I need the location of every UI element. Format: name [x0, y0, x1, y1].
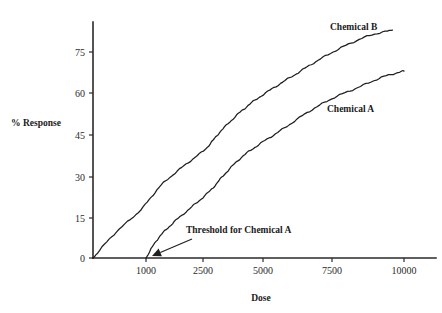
y-tick-label: 75: [75, 47, 85, 58]
y-tick-label: 15: [75, 213, 85, 224]
x-tick-label: 2500: [193, 265, 213, 276]
y-tick-label: 45: [75, 130, 85, 141]
series-label-chemical-b: Chemical B: [330, 22, 378, 32]
x-tick-label: 7500: [322, 265, 342, 276]
y-axis-title: % Response: [11, 118, 61, 128]
series-label-chemical-a: Chemical A: [327, 104, 374, 114]
y-tick-label: 30: [75, 172, 85, 183]
chart-canvas: 01530456075 100025005000750010000 Chemic…: [0, 0, 442, 313]
chart-background: [0, 0, 442, 313]
x-tick-label: 10000: [392, 265, 417, 276]
threshold-annotation-label: Threshold for Chemical A: [186, 225, 292, 235]
y-tick-label: 0: [80, 253, 85, 264]
x-tick-label: 1000: [136, 265, 156, 276]
dose-response-chart: 01530456075 100025005000750010000 Chemic…: [0, 0, 442, 313]
x-tick-label: 5000: [253, 265, 273, 276]
x-axis-title: Dose: [251, 293, 271, 303]
y-tick-label: 60: [75, 88, 85, 99]
